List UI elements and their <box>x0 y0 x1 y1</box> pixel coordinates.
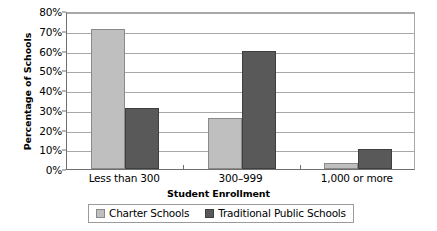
legend-label: Traditional Public Schools <box>218 207 346 219</box>
y-tick-label: 30% <box>39 105 62 117</box>
gridline <box>67 13 414 14</box>
chart-legend: Charter SchoolsTraditional Public School… <box>88 204 354 223</box>
legend-swatch-icon <box>205 209 214 218</box>
x-axis-title: Student Enrollment <box>0 188 437 199</box>
y-tick-label: 20% <box>39 125 62 137</box>
plot-area <box>66 12 415 170</box>
bar-traditional <box>358 149 392 169</box>
bar-traditional <box>242 51 276 170</box>
legend-swatch-icon <box>96 209 105 218</box>
category-separator <box>183 165 184 169</box>
x-tick-label: 1,000 or more <box>321 172 393 184</box>
x-axis-tick-labels: Less than 300300–9991,000 or more <box>66 172 415 188</box>
bar-traditional <box>125 108 159 169</box>
x-tick-label: 300–999 <box>219 172 263 184</box>
bar-charter <box>208 118 242 169</box>
legend-item[interactable]: Traditional Public Schools <box>205 207 346 219</box>
y-tick-label: 60% <box>39 46 62 58</box>
category-separator <box>300 165 301 169</box>
y-tick-label: 10% <box>39 144 62 156</box>
bar-charter <box>324 163 358 169</box>
y-tick-label: 50% <box>39 65 62 77</box>
y-axis-tick-labels: 80%70%60%50%40%30%20%10%0% <box>22 6 62 176</box>
y-tick-label: 40% <box>39 85 62 97</box>
bar-charter <box>91 29 125 169</box>
legend-label: Charter Schools <box>109 207 189 219</box>
x-tick-label: Less than 300 <box>89 172 160 184</box>
legend-item[interactable]: Charter Schools <box>96 207 189 219</box>
y-tick-label: 0% <box>46 164 62 176</box>
bar-chart: Percentage of Schools 80%70%60%50%40%30%… <box>0 0 437 231</box>
y-tick-label: 70% <box>39 26 62 38</box>
y-tick-label: 80% <box>39 6 62 18</box>
